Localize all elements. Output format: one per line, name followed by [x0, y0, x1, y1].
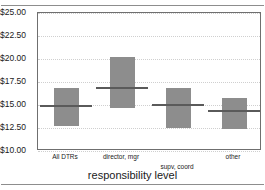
- top-divider: [1, 5, 264, 6]
- gridline: [38, 82, 260, 83]
- bottom-divider: [1, 184, 264, 185]
- y-tick-label: $22.50: [0, 31, 34, 40]
- y-tick-label: $20.00: [0, 54, 34, 63]
- gridline: [38, 59, 260, 60]
- chart-title-clipped: [0, 0, 265, 4]
- range-bar: [222, 98, 247, 129]
- x-axis-title: responsibility level: [0, 169, 265, 182]
- y-tick-label: $25.00: [0, 8, 34, 17]
- y-tick-label: $10.00: [0, 146, 34, 155]
- x-category-label: director, mgr: [103, 153, 139, 161]
- y-tick-label: $17.50: [0, 77, 34, 86]
- range-bar: [110, 57, 135, 108]
- x-category-label: other: [226, 153, 241, 161]
- median-line: [152, 104, 204, 106]
- range-bar: [166, 88, 191, 128]
- plot-area: [37, 12, 261, 150]
- y-tick-label: $12.50: [0, 123, 34, 132]
- y-tick-label: $15.00: [0, 100, 34, 109]
- median-line: [96, 87, 148, 89]
- x-category-label: All DTRs: [52, 153, 78, 161]
- gridline: [38, 36, 260, 37]
- median-line: [208, 110, 260, 112]
- median-line: [40, 105, 92, 107]
- gridline: [38, 151, 260, 152]
- chart-figure: $25.00$22.50$20.00$17.50$15.00$12.50$10.…: [0, 0, 265, 190]
- gridline: [38, 13, 260, 14]
